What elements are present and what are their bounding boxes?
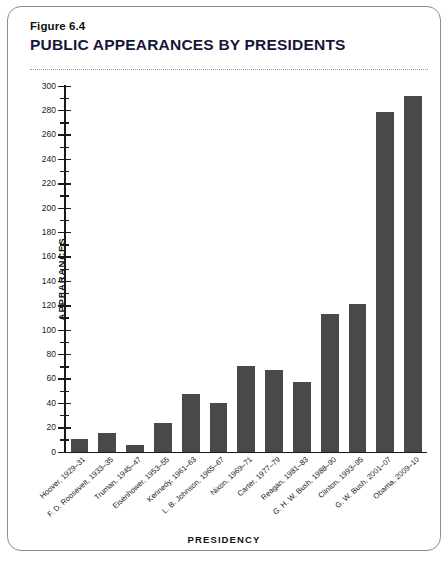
y-tick-label: 220: [42, 178, 56, 188]
y-tick-label: 180: [42, 227, 56, 237]
bar-slot: [344, 86, 372, 452]
y-tick-label: 60: [47, 373, 56, 383]
y-tick-label: 160: [42, 251, 56, 261]
y-tick-label: 280: [42, 105, 56, 115]
bar-slot: [316, 86, 344, 452]
title-divider: [30, 69, 428, 70]
bar-slot: [288, 86, 316, 452]
y-tick-label: 240: [42, 154, 56, 164]
bar-slot: [399, 86, 427, 452]
bar: [404, 96, 422, 451]
y-tick-major: [58, 452, 71, 454]
bar-slot: [149, 86, 177, 452]
y-tick-label: 140: [42, 276, 56, 286]
x-axis-tick-labels: Hoover, 1929–31F. D. Roosevelt, 1933–35T…: [64, 455, 427, 535]
y-tick-label: 0: [51, 447, 56, 457]
figure-number: Figure 6.4: [30, 19, 422, 33]
page-title: PUBLIC APPEARANCES BY PRESIDENTS: [30, 35, 422, 54]
y-tick-label: 20: [47, 422, 56, 432]
figure-card: Figure 6.4 PUBLIC APPEARANCES BY PRESIDE…: [7, 6, 441, 551]
bar-series: [66, 86, 428, 452]
bar-slot: [66, 86, 94, 452]
bar-slot: [93, 86, 121, 452]
bar-slot: [205, 86, 233, 452]
x-tick-label-text: Hoover, 1929–31: [38, 455, 87, 500]
bar-slot: [177, 86, 205, 452]
x-axis-title: PRESIDENCY: [8, 534, 440, 545]
y-tick-label: 100: [42, 325, 56, 335]
figure-header: Figure 6.4 PUBLIC APPEARANCES BY PRESIDE…: [30, 19, 422, 54]
y-tick-label: 260: [42, 129, 56, 139]
y-tick-label: 200: [42, 203, 56, 213]
bar-slot: [260, 86, 288, 452]
bar-slot: [371, 86, 399, 452]
bar-slot: [232, 86, 260, 452]
y-tick-label: 120: [42, 300, 56, 310]
y-tick-label: 40: [47, 398, 56, 408]
chart-plot-area: 0204060801001201401601802002202402602803…: [64, 85, 427, 453]
y-tick-label: 80: [47, 349, 56, 359]
bar-slot: [121, 86, 149, 452]
y-tick-label: 300: [42, 81, 56, 91]
